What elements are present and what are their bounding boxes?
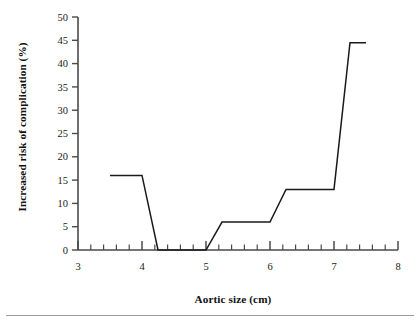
figure-container: Increased risk of complication (%) 05101…	[0, 0, 420, 323]
y-axis-tick-group: 05101520253035404550	[58, 12, 79, 256]
y-tick-label: 30	[58, 105, 69, 116]
y-tick-label: 0	[63, 245, 68, 256]
x-axis-label: Aortic size (cm)	[78, 293, 388, 305]
x-tick-label: 8	[395, 261, 400, 272]
chart-plot-area: 05101520253035404550 345678	[0, 0, 420, 323]
figure-bottom-rule	[6, 315, 414, 316]
y-tick-label: 15	[58, 175, 69, 186]
data-series-line	[110, 43, 366, 250]
x-axis-tick-group: 345678	[75, 241, 400, 272]
y-tick-label: 20	[58, 151, 69, 162]
y-tick-label: 10	[58, 198, 69, 209]
x-tick-label: 6	[267, 261, 272, 272]
x-tick-label: 4	[139, 261, 145, 272]
x-tick-label: 7	[331, 261, 336, 272]
y-tick-label: 35	[58, 82, 69, 93]
y-tick-label: 5	[63, 221, 68, 232]
x-tick-label: 5	[203, 261, 208, 272]
y-tick-label: 50	[58, 12, 69, 23]
x-tick-label: 3	[75, 261, 80, 272]
y-tick-label: 40	[58, 58, 69, 69]
y-tick-label: 25	[58, 128, 69, 139]
y-tick-label: 45	[58, 35, 69, 46]
